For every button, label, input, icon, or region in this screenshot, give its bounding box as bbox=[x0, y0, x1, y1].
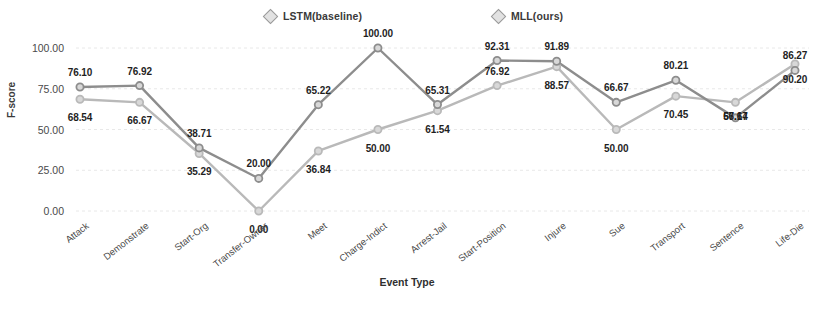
data-point-label: 36.84 bbox=[306, 163, 331, 174]
data-point-label: 66.67 bbox=[604, 82, 629, 93]
y-axis-tick-label: 50.00 bbox=[0, 124, 64, 136]
data-point-marker[interactable] bbox=[76, 96, 83, 103]
data-point-label: 50.00 bbox=[604, 142, 629, 153]
data-point-label: 66.67 bbox=[127, 115, 152, 126]
x-axis-title: Event Type bbox=[0, 276, 814, 288]
data-point-label: 20.00 bbox=[246, 158, 271, 169]
data-point-label: 70.45 bbox=[664, 109, 689, 120]
data-point-marker[interactable] bbox=[136, 82, 143, 89]
data-point-label: 35.29 bbox=[187, 166, 212, 177]
data-point-marker[interactable] bbox=[434, 101, 441, 108]
data-point-label: 65.22 bbox=[306, 84, 331, 95]
data-point-label: 90.20 bbox=[783, 73, 808, 84]
data-point-marker[interactable] bbox=[613, 99, 620, 106]
data-point-marker[interactable] bbox=[374, 44, 381, 51]
data-point-label: 65.31 bbox=[425, 84, 450, 95]
data-point-marker[interactable] bbox=[136, 99, 143, 106]
data-point-marker[interactable] bbox=[255, 207, 262, 214]
data-point-marker[interactable] bbox=[613, 126, 620, 133]
data-point-label: 61.54 bbox=[425, 123, 450, 134]
data-point-marker[interactable] bbox=[76, 83, 83, 90]
data-point-marker[interactable] bbox=[196, 144, 203, 151]
data-point-marker[interactable] bbox=[553, 58, 560, 65]
data-point-marker[interactable] bbox=[315, 101, 322, 108]
data-point-label: 76.10 bbox=[68, 66, 93, 77]
y-axis-tick-label: 0.00 bbox=[0, 205, 64, 217]
data-point-label: 68.54 bbox=[68, 112, 93, 123]
data-point-marker[interactable] bbox=[493, 82, 500, 89]
y-axis-tick-label: 25.00 bbox=[0, 164, 64, 176]
data-point-label: 57.14 bbox=[723, 110, 748, 121]
data-point-marker[interactable] bbox=[255, 175, 262, 182]
data-point-label: 88.57 bbox=[544, 79, 569, 90]
plot-area: 0.0025.0050.0075.00100.0068.5466.6735.29… bbox=[0, 0, 814, 309]
y-axis-tick-label: 100.00 bbox=[0, 42, 64, 54]
data-point-label: 50.00 bbox=[366, 142, 391, 153]
data-point-label: 38.71 bbox=[187, 127, 212, 138]
data-point-marker[interactable] bbox=[672, 93, 679, 100]
data-point-marker[interactable] bbox=[672, 77, 679, 84]
y-axis-title: F-score bbox=[6, 82, 17, 118]
data-point-label: 100.00 bbox=[363, 28, 393, 39]
data-point-label: 80.21 bbox=[664, 60, 689, 71]
data-point-marker[interactable] bbox=[374, 126, 381, 133]
data-point-label: 86.27 bbox=[783, 50, 808, 61]
data-point-label: 76.92 bbox=[485, 65, 510, 76]
data-point-label: 91.89 bbox=[544, 41, 569, 52]
data-point-marker[interactable] bbox=[732, 99, 739, 106]
data-point-label: 92.31 bbox=[485, 40, 510, 51]
chart-container: LSTM(baseline) MLL(ours) 0.0025.0050.007… bbox=[0, 0, 814, 309]
chart-canvas bbox=[0, 0, 814, 309]
data-point-marker[interactable] bbox=[315, 147, 322, 154]
data-point-label: 76.92 bbox=[127, 65, 152, 76]
data-point-marker[interactable] bbox=[493, 57, 500, 64]
